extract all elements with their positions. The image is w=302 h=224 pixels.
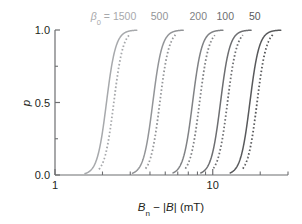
y-tick-label: 0.5 [35, 97, 50, 109]
curve-label: β0 = 1500 [90, 10, 137, 27]
x-axis-title: Bn − |B| (mT) [138, 201, 205, 218]
x-axis-ticks [55, 169, 288, 175]
x-tick-label: 1 [52, 179, 58, 191]
curve-solid [85, 30, 137, 173]
x-axis-tick-labels: 110 [52, 179, 219, 191]
sigmoid-plot: 0.00.51.0 110 β0 = 150050020010050 p Bn … [0, 0, 302, 224]
y-tick-label: 0.0 [35, 169, 50, 181]
curve-solid [201, 30, 251, 173]
curve-solid [230, 30, 281, 173]
y-axis-title: p [20, 99, 32, 107]
curve-solid [173, 30, 223, 173]
curve-label: 500 [151, 10, 169, 22]
curve-label: 50 [249, 10, 261, 22]
y-axis-ticks [55, 30, 60, 175]
curve-solid [133, 30, 184, 173]
y-axis-tick-labels: 0.00.51.0 [35, 24, 50, 181]
curve-annotation-labels: β0 = 150050020010050 [90, 10, 261, 27]
curve-label: 100 [216, 10, 234, 22]
curves-layer [85, 30, 281, 173]
y-tick-label: 1.0 [35, 24, 50, 36]
curve-label: 200 [190, 10, 208, 22]
axes-layer [55, 30, 288, 175]
x-tick-label: 10 [207, 179, 219, 191]
figure-panel: 0.00.51.0 110 β0 = 150050020010050 p Bn … [0, 0, 302, 224]
